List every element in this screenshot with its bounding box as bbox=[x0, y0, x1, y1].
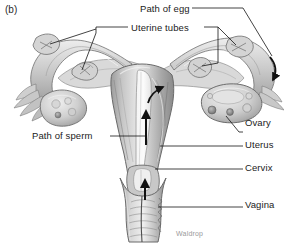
left-ovary bbox=[40, 90, 86, 126]
left-tube-isthmus bbox=[72, 62, 98, 80]
leader-uterine-tubes-left-stem bbox=[96, 27, 128, 33]
label-uterus: Uterus bbox=[245, 140, 274, 150]
left-tube-ampulla-knot bbox=[33, 34, 60, 54]
label-cervix: Cervix bbox=[245, 163, 273, 173]
figure-panel: (b) Path of egg Uterine tubes Path of sp… bbox=[0, 0, 284, 247]
label-uterine-tubes: Uterine tubes bbox=[131, 23, 189, 33]
label-ovary: Ovary bbox=[245, 118, 271, 128]
label-vagina: Vagina bbox=[245, 200, 274, 210]
reproductive-system-illustration bbox=[0, 0, 284, 247]
panel-label: (b) bbox=[5, 5, 17, 15]
label-path-of-egg: Path of egg bbox=[140, 4, 190, 14]
artist-credit: Waldrop bbox=[176, 230, 203, 237]
right-tube-isthmus bbox=[188, 58, 212, 78]
cervix bbox=[127, 165, 160, 197]
label-path-of-sperm: Path of sperm bbox=[32, 131, 92, 141]
